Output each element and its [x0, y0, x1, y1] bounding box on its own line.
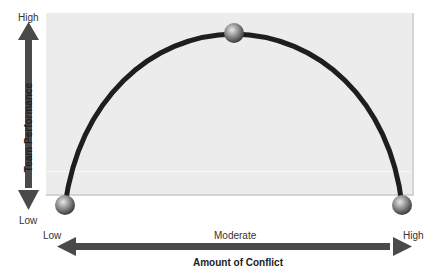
x-tick-high: High: [403, 230, 424, 241]
x-tick-low: Low: [43, 230, 61, 241]
x-tick-moderate: Moderate: [214, 230, 256, 241]
performance-curve: [65, 34, 402, 205]
y-tick-high: High: [18, 12, 39, 23]
x-axis-title: Amount of Conflict: [193, 257, 283, 268]
y-tick-low: Low: [19, 215, 37, 226]
marker-low-conflict: [55, 195, 75, 215]
marker-high-conflict: [392, 195, 412, 215]
y-axis-title: Team Performance: [23, 83, 34, 173]
marker-moderate-conflict: [224, 23, 244, 43]
